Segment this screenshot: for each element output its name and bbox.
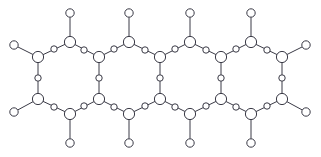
substituent-atom — [186, 9, 194, 17]
ring-atom — [154, 51, 165, 62]
ring-atom — [245, 108, 256, 119]
ring-atom-circle — [184, 108, 195, 119]
bond-node — [142, 103, 148, 109]
ring-atom — [215, 93, 226, 104]
bond-node — [264, 103, 270, 109]
bond-node — [264, 47, 270, 53]
ring-atom-circle — [276, 93, 287, 104]
ring-atom — [215, 51, 226, 62]
substituent-atom — [302, 108, 310, 116]
ring-atom — [123, 108, 134, 119]
bond-node — [96, 75, 102, 81]
bond-node — [172, 46, 178, 52]
ring-atom — [93, 93, 104, 104]
ring-atom — [64, 108, 75, 119]
ring-atom — [32, 51, 43, 62]
bond-node — [233, 104, 239, 110]
bond-node — [172, 104, 178, 110]
bond-node — [81, 47, 87, 53]
ring-atom — [93, 51, 104, 62]
ring-atom-circle — [32, 93, 43, 104]
ring-atom — [64, 36, 75, 47]
ring-atom-circle — [245, 36, 256, 47]
substituent-atom — [125, 9, 133, 17]
ring-atom — [184, 36, 195, 47]
ring-atom — [123, 36, 134, 47]
ring-atom — [32, 93, 43, 104]
ring-atom — [184, 108, 195, 119]
substituent-atom — [186, 139, 194, 147]
bond-node — [51, 104, 57, 110]
substituent-atom — [247, 9, 255, 17]
ring-atom-circle — [215, 93, 226, 104]
bond-node — [203, 103, 209, 109]
substituent-atom — [66, 139, 74, 147]
ring-atom-circle — [123, 36, 134, 47]
ring-atom-circle — [123, 108, 134, 119]
ring-atom-circle — [215, 51, 226, 62]
substituent-atom — [10, 41, 18, 49]
bond-node — [51, 46, 57, 52]
bond-node — [233, 46, 239, 52]
ring-atom-circle — [64, 108, 75, 119]
bond-node — [142, 47, 148, 53]
ring-atom-circle — [154, 93, 165, 104]
ring-atom — [154, 93, 165, 104]
bond-node — [218, 75, 224, 81]
ring-atom — [245, 36, 256, 47]
bond-node — [81, 103, 87, 109]
substituent-atom — [10, 108, 18, 116]
substituent-atom — [302, 41, 310, 49]
ring-atom-circle — [93, 51, 104, 62]
ring-atom-circle — [245, 108, 256, 119]
figure-canvas — [0, 0, 321, 157]
molecular-structure-diagram — [0, 0, 321, 157]
ring-atom-circle — [32, 51, 43, 62]
substituent-atom — [125, 139, 133, 147]
bond-node — [111, 46, 117, 52]
bond-node — [157, 75, 163, 81]
ring-atom — [276, 51, 287, 62]
bond-node — [203, 47, 209, 53]
ring-atom-circle — [64, 36, 75, 47]
substituent-atom — [247, 139, 255, 147]
bond-node — [35, 75, 41, 81]
bond-node — [279, 75, 285, 81]
ring-atom-circle — [93, 93, 104, 104]
ring-atom — [276, 93, 287, 104]
ring-atom-circle — [276, 51, 287, 62]
ring-atom-circle — [184, 36, 195, 47]
substituent-atom — [66, 9, 74, 17]
ring-atom-circle — [154, 51, 165, 62]
bond-node — [111, 104, 117, 110]
